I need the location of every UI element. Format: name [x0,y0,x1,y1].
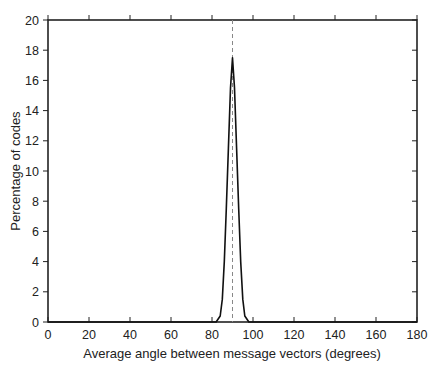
chart: 0204060801001201401601800246810121416182… [0,0,439,369]
x-axis-label: Average angle between message vectors (d… [83,346,381,361]
x-tick-label: 140 [325,328,346,342]
y-tick-label: 14 [25,104,39,118]
y-tick-label: 18 [25,44,39,58]
y-tick-label: 2 [32,285,39,299]
x-tick-label: 120 [284,328,305,342]
y-tick-label: 20 [25,14,39,28]
x-tick-label: 0 [45,328,52,342]
y-tick-label: 10 [25,165,39,179]
x-tick-label: 20 [82,328,96,342]
x-tick-label: 40 [123,328,137,342]
y-axis-label: Percentage of codes [8,111,23,231]
x-tick-label: 160 [366,328,387,342]
axis-ticks: 0204060801001201401601800246810121416182… [25,14,427,343]
x-tick-label: 60 [164,328,178,342]
x-tick-label: 80 [205,328,219,342]
x-tick-label: 100 [243,328,264,342]
y-tick-label: 16 [25,74,39,88]
y-tick-label: 6 [32,225,39,239]
y-tick-label: 4 [32,255,39,269]
y-tick-label: 8 [32,195,39,209]
x-tick-label: 180 [407,328,428,342]
y-tick-label: 0 [32,316,39,330]
y-tick-label: 12 [25,134,39,148]
